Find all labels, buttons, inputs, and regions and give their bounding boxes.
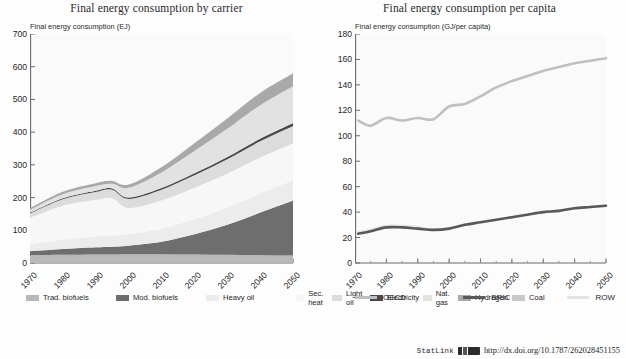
- y-tick-label: 80: [326, 156, 352, 166]
- statlink-url[interactable]: http://dx.doi.org/10.1787/262028451155: [484, 346, 620, 355]
- y-tick-label: 160: [326, 54, 352, 64]
- legend-item-trad-biofuels[interactable]: Trad. biofuels: [26, 292, 112, 304]
- y-tick-label: 60: [326, 182, 352, 192]
- right-y-axis-label: Final energy consumption (GJ/per capita): [355, 22, 491, 31]
- legend-swatch-icon: [332, 295, 342, 301]
- y-tick-label: 180: [326, 29, 352, 39]
- y-tick-label: 500: [1, 94, 27, 104]
- left-y-axis-label: Final energy consumption (EJ): [30, 22, 130, 31]
- barcode-icon: [458, 347, 480, 355]
- y-tick-label: 100: [1, 225, 27, 235]
- legend-label: Mod. biofuels: [133, 293, 178, 302]
- legend-item-bric[interactable]: BRIC: [463, 293, 510, 302]
- area-trad-biofuels: [30, 254, 293, 263]
- legend-label: Heavy oil: [223, 293, 254, 302]
- right-plot-area: [355, 34, 608, 264]
- legend-line-icon: [355, 296, 377, 299]
- y-tick-label: 300: [1, 160, 27, 170]
- legend-swatch-icon: [206, 295, 219, 301]
- legend-item-oecd[interactable]: OECD: [355, 293, 406, 302]
- y-tick-label: 400: [1, 127, 27, 137]
- right-chart-title: Final energy consumption per capita: [313, 2, 626, 14]
- statlink-footer[interactable]: StatLink http://dx.doi.org/10.1787/26202…: [417, 346, 620, 355]
- legend-swatch-icon: [26, 295, 39, 301]
- legend-line-icon: [567, 296, 589, 299]
- left-plot-area: [30, 34, 295, 264]
- legend-swatch-icon: [296, 295, 304, 301]
- y-tick-label: 0: [326, 258, 352, 268]
- legend-item-sec-heat[interactable]: Sec. heat: [296, 292, 328, 304]
- y-tick-label: 600: [1, 62, 27, 72]
- legend-label: OECD: [383, 293, 406, 302]
- y-tick-label: 200: [1, 193, 27, 203]
- legend-item-row[interactable]: ROW: [567, 293, 615, 302]
- legend-label: BRIC: [491, 293, 510, 302]
- legend-label: Trad. biofuels: [43, 293, 89, 302]
- panel-energy-per-capita: Final energy consumption per capita Fina…: [313, 0, 626, 330]
- statlink-label: StatLink: [417, 347, 454, 355]
- y-tick-label: 700: [1, 29, 27, 39]
- right-chart-legend: OECDBRICROW: [355, 293, 615, 302]
- y-tick-label: 40: [326, 207, 352, 217]
- y-tick-label: 0: [1, 258, 27, 268]
- legend-swatch-icon: [116, 295, 129, 301]
- left-chart-legend: Trad. biofuelsMod. biofuelsHeavy oilSec.…: [26, 292, 306, 304]
- y-tick-label: 20: [326, 233, 352, 243]
- legend-item-mod-biofuels[interactable]: Mod. biofuels: [116, 292, 202, 304]
- legend-label: Sec. heat: [308, 289, 328, 307]
- y-tick-label: 140: [326, 80, 352, 90]
- legend-item-heavy-oil[interactable]: Heavy oil: [206, 292, 292, 304]
- y-tick-label: 100: [326, 131, 352, 141]
- left-chart-title: Final energy consumption by carrier: [0, 2, 313, 14]
- legend-label: ROW: [595, 293, 615, 302]
- legend-line-icon: [463, 296, 485, 299]
- panel-energy-by-carrier: Final energy consumption by carrier Fina…: [0, 0, 313, 330]
- y-tick-label: 120: [326, 105, 352, 115]
- figure-panels: Final energy consumption by carrier Fina…: [0, 0, 626, 330]
